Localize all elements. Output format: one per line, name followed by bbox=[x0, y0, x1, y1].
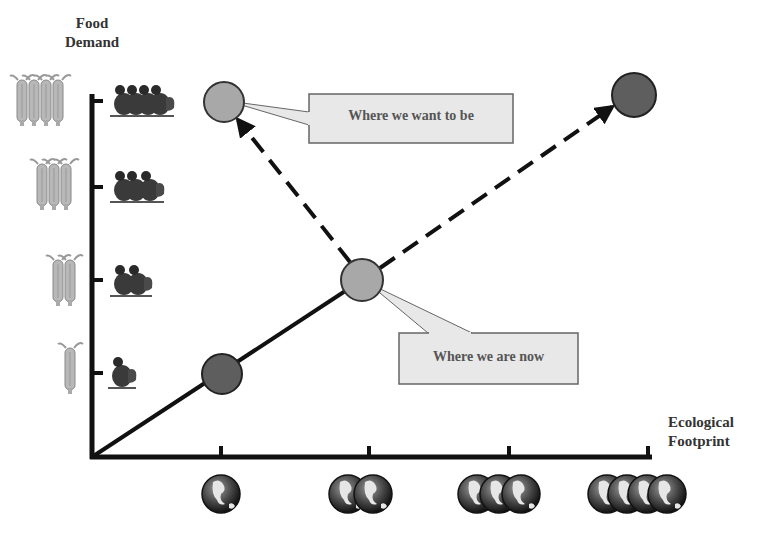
y-axis-label: Food Demand bbox=[46, 14, 138, 52]
chicken-icon bbox=[110, 171, 164, 203]
x-level-globes-2 bbox=[329, 475, 392, 513]
y-level-icons-3 bbox=[30, 159, 164, 210]
corn-icon bbox=[30, 159, 79, 210]
point-past bbox=[202, 354, 242, 394]
y-level-icons-1 bbox=[58, 343, 136, 394]
globe-icon bbox=[202, 475, 240, 513]
callout-now-pointer bbox=[368, 283, 472, 333]
y-axis bbox=[92, 94, 103, 459]
globe-icon bbox=[648, 475, 686, 513]
x-axis-label-line1: Ecological bbox=[668, 413, 778, 432]
x-level-globes-3 bbox=[458, 475, 540, 513]
chicken-icon bbox=[110, 265, 152, 297]
point-now bbox=[341, 259, 383, 301]
y-axis-label-line1: Food bbox=[46, 14, 138, 33]
globe-icon bbox=[354, 475, 392, 513]
chicken-icon bbox=[108, 357, 136, 389]
x-axis-label-line2: Footprint bbox=[668, 432, 778, 451]
x-axis bbox=[90, 446, 652, 457]
corn-icon bbox=[10, 75, 71, 126]
point-target bbox=[204, 82, 244, 122]
globe-icon bbox=[502, 475, 540, 513]
point-business-as-usual bbox=[612, 73, 656, 117]
y-axis-label-line2: Demand bbox=[46, 33, 138, 52]
callout-want-text: Where we want to be bbox=[309, 108, 513, 124]
callout-now-text: Where we are now bbox=[399, 349, 578, 365]
x-axis-label: Ecological Footprint bbox=[668, 413, 778, 451]
corn-icon bbox=[46, 255, 83, 306]
diagram-canvas bbox=[0, 0, 781, 546]
x-level-globes-1 bbox=[202, 475, 240, 513]
x-level-globes-4 bbox=[588, 475, 686, 513]
chicken-icon bbox=[110, 85, 174, 117]
corn-icon bbox=[58, 343, 83, 394]
